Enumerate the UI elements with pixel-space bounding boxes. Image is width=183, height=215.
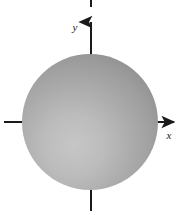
x-axis-label: x [166, 129, 172, 141]
figure-container: y x [0, 0, 183, 215]
y-axis-label: y [72, 21, 78, 33]
shaded-sphere [22, 54, 158, 190]
sphere-axes-figure: y x [0, 0, 183, 215]
